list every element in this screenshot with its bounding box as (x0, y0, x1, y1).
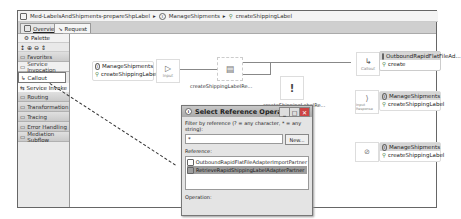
drawer-tracing[interactable]: ▭Tracing (18, 112, 69, 122)
interface-icon: I (382, 144, 387, 151)
input-node[interactable]: I ManageShipments ⚲ createShippingLabel (92, 61, 154, 81)
overview-icon (24, 25, 31, 32)
palette-title: Palette (31, 35, 50, 41)
reference-item-label: RetrieveRapidShippingLabelAdapterPartner (196, 167, 304, 173)
drawer-mediation-subflow[interactable]: ▭Mediation Subflow (18, 132, 69, 142)
zoom-out-icon[interactable]: ⊖ (34, 44, 39, 51)
folder-icon: ▭ (20, 94, 25, 100)
input-primitive[interactable]: ▷ Input (156, 59, 180, 83)
operation-label: createShippingLabel (388, 152, 444, 158)
callout-icon: ↳ (21, 75, 26, 81)
filter-input[interactable]: * (185, 134, 283, 144)
transform-icon: ▤ (226, 64, 235, 74)
palette-icon: ⚙ (24, 35, 29, 41)
reference-icon (382, 53, 384, 60)
module-icon (20, 13, 27, 20)
operation-label: createShippingLabel (101, 71, 157, 77)
drawer-transformation[interactable]: ▭Transformation (18, 102, 69, 112)
breadcrumb-separator: ▸ (153, 13, 156, 19)
callout-operation: ⚲ create (380, 60, 440, 68)
operation-icon: ⚲ (382, 152, 386, 158)
palette-toolbar: ↕ ⊕ ⊖ ⇕ (18, 43, 69, 52)
drawer-label: Tracing (27, 114, 47, 120)
breadcrumb-item-interface[interactable]: ManageShipments (169, 13, 220, 19)
connection-tool-icon[interactable]: ⇕ (41, 44, 46, 51)
operation-icon: ⚲ (382, 101, 386, 107)
operation-icon: ⚲ (95, 71, 99, 77)
drawer-label: Transformation (27, 104, 68, 110)
input-response-node[interactable]: I ManageShipments ⚲ createShippingLabel (379, 91, 441, 111)
wire[interactable] (243, 74, 271, 75)
input-fault-operation: ⚲ createShippingLabel (380, 151, 440, 159)
folder-icon: ▭ (20, 124, 25, 130)
callout-node[interactable]: OutboundRapidFlatFileAd... ⚲ create (379, 51, 441, 71)
reference-item[interactable]: OutboundRapidFlatFileAdapterImportPartne… (187, 158, 307, 166)
select-tool-icon[interactable]: ↕ (20, 44, 25, 51)
request-icon: ↘ (58, 26, 63, 32)
select-reference-operation-dialog: i Select Reference Operation _ □ ✕ Filte… (181, 105, 313, 216)
interface-label: ManageShipments (102, 63, 153, 69)
tab-request[interactable]: ↘ Request (54, 23, 91, 33)
drawer-routing[interactable]: ▭Routing (18, 92, 69, 102)
tool-label: Callout (28, 75, 47, 81)
palette-header[interactable]: ⚙ Palette (18, 34, 69, 43)
folder-icon: ▭ (20, 134, 25, 140)
folder-open-icon: ▭ (20, 64, 25, 70)
drawer-service-invocation[interactable]: ▭Service Invocation (18, 62, 69, 72)
operation-icon: ⚲ (229, 13, 233, 19)
callout-primitive[interactable]: ↳ Callout (356, 52, 380, 76)
service-invoke-icon: ⇆ (20, 85, 25, 91)
input-node-operation: ⚲ createShippingLabel (93, 70, 153, 78)
interface-label: ManageShipments (389, 144, 440, 150)
callout-partner: OutboundRapidFlatFileAd... (380, 52, 440, 60)
drawer-label: Routing (27, 94, 48, 100)
exclamation-icon: ! (290, 83, 295, 94)
primitive-label: Input Response (356, 103, 378, 111)
breadcrumb-item-operation[interactable]: createShippingLabel (236, 13, 292, 19)
reference-icon (187, 159, 194, 166)
wire[interactable] (243, 62, 351, 63)
interface-label: ManageShipments (389, 93, 440, 99)
transform-node-label: createShippingLabelRe... (190, 83, 252, 89)
folder-icon: ▭ (20, 104, 25, 110)
drawer-label: Error Handling (27, 124, 67, 130)
fail-node[interactable]: ! (280, 76, 304, 100)
operation-icon: ⚲ (382, 61, 386, 67)
drawer-label: Service Invocation (27, 61, 69, 73)
tab-label: Request (65, 26, 87, 32)
breadcrumb-item-module[interactable]: Med-LabelsAndShipments-prepareShpLabel (30, 13, 150, 19)
input-response-primitive[interactable]: ⟩ Input Response (355, 90, 379, 114)
primitive-label: Callout (361, 66, 375, 71)
palette: ⚙ Palette ↕ ⊕ ⊖ ⇕ ▭Favorites ▭Service In… (18, 34, 70, 207)
reference-item-selected[interactable]: RetrieveRapidShippingLabelAdapterPartner (187, 166, 307, 174)
input-fault-icon: ⊘ (364, 148, 370, 156)
reference-list[interactable]: OutboundRapidFlatFileAdapterImportPartne… (185, 156, 309, 190)
dialog-titlebar[interactable]: i Select Reference Operation _ □ ✕ (182, 106, 312, 117)
input-icon: ▷ (165, 64, 171, 73)
partner-label: OutboundRapidFlatFileAd... (386, 53, 461, 59)
folder-icon: ▭ (20, 54, 25, 60)
tool-callout[interactable]: ↳Callout (18, 72, 66, 83)
interface-icon: I (382, 93, 387, 100)
input-fault-node[interactable]: I ManageShipments ⚲ createShippingLabel (379, 142, 441, 162)
new-button[interactable]: New... (285, 134, 309, 145)
drawer-label: Favorites (27, 54, 52, 60)
input-fault-primitive[interactable]: ⊘ (355, 142, 379, 162)
reference-label: Reference: (185, 148, 309, 154)
editor-tabs: Overview ↘ Request (18, 22, 436, 34)
zoom-in-icon[interactable]: ⊕ (27, 44, 32, 51)
close-button[interactable]: ✕ (299, 107, 310, 117)
interface-icon: I (159, 13, 166, 20)
filter-row: * New... (185, 134, 309, 145)
drawer-label: Mediation Subflow (27, 131, 69, 143)
dialog-body: Filter by reference (? = any character, … (182, 117, 312, 203)
input-response-interface: I ManageShipments (380, 92, 440, 100)
wire[interactable] (270, 62, 271, 74)
xsl-transform-node[interactable]: ▤ (217, 57, 243, 81)
reference-icon (187, 167, 194, 174)
wire[interactable] (180, 69, 217, 70)
primitive-label: Input (163, 73, 173, 78)
interface-icon: I (95, 63, 100, 70)
reference-item-label: OutboundRapidFlatFileAdapterImportPartne… (196, 159, 307, 165)
callout-icon: ↳ (365, 57, 372, 66)
